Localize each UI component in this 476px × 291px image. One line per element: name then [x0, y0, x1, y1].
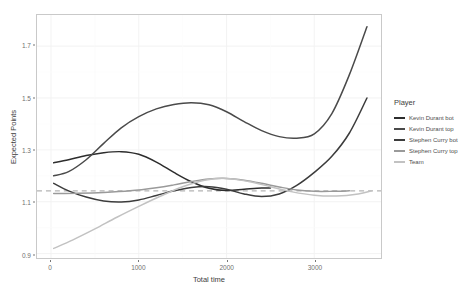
legend-item[interactable]: Team — [394, 156, 474, 167]
x-tick-label: 2000 — [219, 264, 233, 271]
x-tick-mark — [50, 260, 51, 262]
y-tick-mark — [33, 97, 35, 98]
legend-swatch-icon — [394, 161, 405, 163]
series-line — [54, 152, 271, 191]
legend-item[interactable]: Stephen Curry bot — [394, 134, 474, 145]
y-tick-label: 1.1 — [22, 199, 31, 206]
series-lines — [54, 27, 372, 249]
y-tick-mark — [33, 202, 35, 203]
y-tick-mark — [33, 149, 35, 150]
chart-figure: Expected Points Total time 0.91.11.31.51… — [0, 0, 476, 291]
plot-svg — [37, 15, 381, 258]
legend-item-label: Kevin Durant bot — [409, 115, 454, 121]
gridlines — [37, 15, 381, 258]
x-tick-label: 0 — [48, 264, 52, 271]
legend-item[interactable]: Kevin Durant top — [394, 123, 474, 134]
legend-item-label: Team — [409, 159, 424, 165]
y-tick-label: 1.5 — [22, 94, 31, 101]
y-axis-title: Expected Points — [9, 110, 18, 164]
legend-item[interactable]: Kevin Durant bot — [394, 112, 474, 123]
x-tick-mark — [315, 260, 316, 262]
x-tick-mark — [138, 260, 139, 262]
legend-swatch-icon — [394, 150, 405, 152]
legend-item[interactable]: Stephen Curry top — [394, 145, 474, 156]
y-tick-mark — [33, 254, 35, 255]
plot-panel — [36, 14, 382, 259]
x-axis-title: Total time — [193, 275, 225, 284]
legend-item-label: Stephen Curry top — [409, 148, 458, 154]
legend-item-label: Stephen Curry bot — [409, 137, 458, 143]
x-tick-label: 1000 — [131, 264, 145, 271]
y-tick-label: 1.7 — [22, 42, 31, 49]
legend-items: Kevin Durant botKevin Durant topStephen … — [394, 112, 474, 167]
y-tick-label: 1.3 — [22, 146, 31, 153]
y-tick-label: 0.9 — [22, 251, 31, 258]
legend-swatch-icon — [394, 117, 405, 119]
legend: Player Kevin Durant botKevin Durant topS… — [394, 98, 474, 167]
legend-swatch-icon — [394, 139, 405, 141]
x-tick-label: 3000 — [308, 264, 322, 271]
legend-swatch-icon — [394, 128, 405, 130]
legend-item-label: Kevin Durant top — [409, 126, 454, 132]
y-tick-mark — [33, 45, 35, 46]
x-tick-mark — [227, 260, 228, 262]
legend-title: Player — [394, 98, 474, 107]
